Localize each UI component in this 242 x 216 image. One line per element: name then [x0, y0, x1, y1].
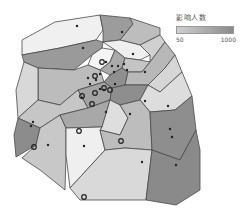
legend: 影响人数 50 1000 [176, 12, 238, 43]
legend-min-label: 50 [176, 36, 184, 43]
legend-gradient-bar [176, 26, 234, 34]
legend-title: 影响人数 [176, 12, 238, 22]
legend-labels: 50 1000 [176, 36, 236, 43]
legend-max-label: 1000 [221, 36, 236, 43]
